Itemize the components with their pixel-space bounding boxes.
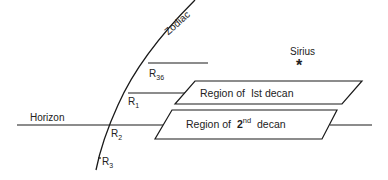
asterisk-star-icon: * <box>296 57 303 74</box>
decan-diagram: Zodiac R36 R1 Horizon R2 R3 Region of Is… <box>0 0 388 180</box>
r36-label: R36 <box>149 68 164 81</box>
r2-label: R2 <box>111 128 122 141</box>
horizon-label: Horizon <box>30 112 64 123</box>
zodiac-label: Zodiac <box>162 9 192 37</box>
region-first-decan-label: Region of Ist decan <box>200 87 294 99</box>
r3-label: R3 <box>102 156 113 169</box>
r1-label: R1 <box>128 96 139 109</box>
sirius-label: Sirius <box>290 46 315 57</box>
